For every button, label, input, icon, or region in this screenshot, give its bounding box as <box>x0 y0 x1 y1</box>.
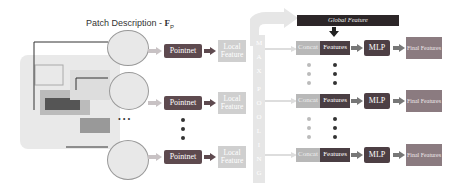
features-box: Features <box>320 94 350 108</box>
diagram-title: Patch Description - FP <box>86 18 174 30</box>
arrow-icon <box>393 97 405 105</box>
title-text: Patch Description - <box>86 18 165 28</box>
global-feature-box: Global Feature <box>297 15 399 26</box>
pointnet-box: Pointnet <box>164 96 202 110</box>
concat-box: Concat <box>296 41 320 55</box>
max-pooling-letter: G <box>253 169 265 177</box>
dot <box>181 136 185 140</box>
max-pooling-letter: N <box>253 155 265 163</box>
pointnet-box: Pointnet <box>164 150 202 164</box>
features-box: Features <box>320 148 350 162</box>
max-pooling-letter: O <box>253 99 265 107</box>
dot <box>307 126 311 130</box>
max-pooling-letter: I <box>253 141 265 149</box>
arrow-icon <box>204 47 216 55</box>
arrow-icon <box>148 153 162 161</box>
local-feature-box: Local Feature <box>218 146 246 168</box>
arrow-icon <box>265 151 297 159</box>
title-subscript: P <box>170 24 174 30</box>
dot <box>307 72 311 76</box>
arrow-icon <box>265 45 297 53</box>
dot <box>333 135 337 139</box>
features-box: Features <box>320 41 350 55</box>
final-features-box: Final Features <box>406 144 442 166</box>
mlp-box: MLP <box>364 93 390 109</box>
svg-text:• • •: • • • <box>118 115 131 124</box>
max-pooling-letter: O <box>253 113 265 121</box>
dot <box>307 135 311 139</box>
dot <box>333 117 337 121</box>
patch-circle-3 <box>107 140 149 180</box>
max-pooling-letter: X <box>253 67 265 75</box>
arrow-icon <box>351 151 363 159</box>
max-pooling-letter: P <box>253 85 265 93</box>
concat-box: Concat <box>296 148 320 162</box>
max-pooling-letter: L <box>253 127 265 135</box>
local-feature-box: Local Feature <box>218 92 246 114</box>
final-features-box: Final Features <box>406 90 442 112</box>
mlp-box: MLP <box>364 147 390 163</box>
dot <box>333 126 337 130</box>
arrow-icon <box>351 44 363 52</box>
dot <box>181 118 185 122</box>
arrow-icon <box>148 47 162 55</box>
local-feature-box: Local Feature <box>218 40 246 62</box>
max-pooling-bar: M A X P O O L I N G <box>253 35 265 183</box>
mlp-box: MLP <box>364 40 390 56</box>
arrow-icon <box>204 153 216 161</box>
dot <box>307 117 311 121</box>
dot <box>333 81 337 85</box>
max-pooling-letter: M <box>253 39 265 47</box>
arrow-icon <box>265 97 297 105</box>
dot <box>181 127 185 131</box>
pointnet-box: Pointnet <box>164 44 202 58</box>
arrow-icon <box>351 97 363 105</box>
final-features-box: Final Features <box>406 37 442 59</box>
patch-circle-1 <box>107 30 149 66</box>
dot <box>307 81 311 85</box>
concat-box: Concat <box>296 94 320 108</box>
dot <box>333 72 337 76</box>
down-arrow-icon <box>329 27 339 37</box>
dot <box>333 63 337 67</box>
arrow-icon <box>148 99 162 107</box>
patch-circle-2 <box>109 72 149 110</box>
arrow-icon <box>393 44 405 52</box>
dot <box>307 63 311 67</box>
arrow-icon <box>393 151 405 159</box>
max-pooling-letter: A <box>253 53 265 61</box>
arrow-icon <box>204 99 216 107</box>
